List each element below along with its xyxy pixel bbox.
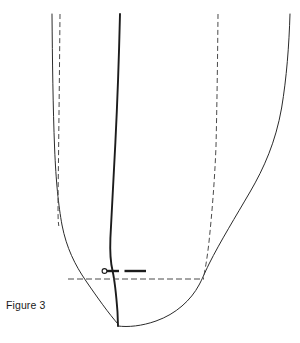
figure-container: Figure 3: [0, 0, 300, 343]
diagram-background: [0, 0, 300, 343]
figure-caption: Figure 3: [6, 299, 45, 312]
section-reference-circle-icon: [102, 269, 107, 274]
hull-lines-diagram: [0, 0, 300, 343]
